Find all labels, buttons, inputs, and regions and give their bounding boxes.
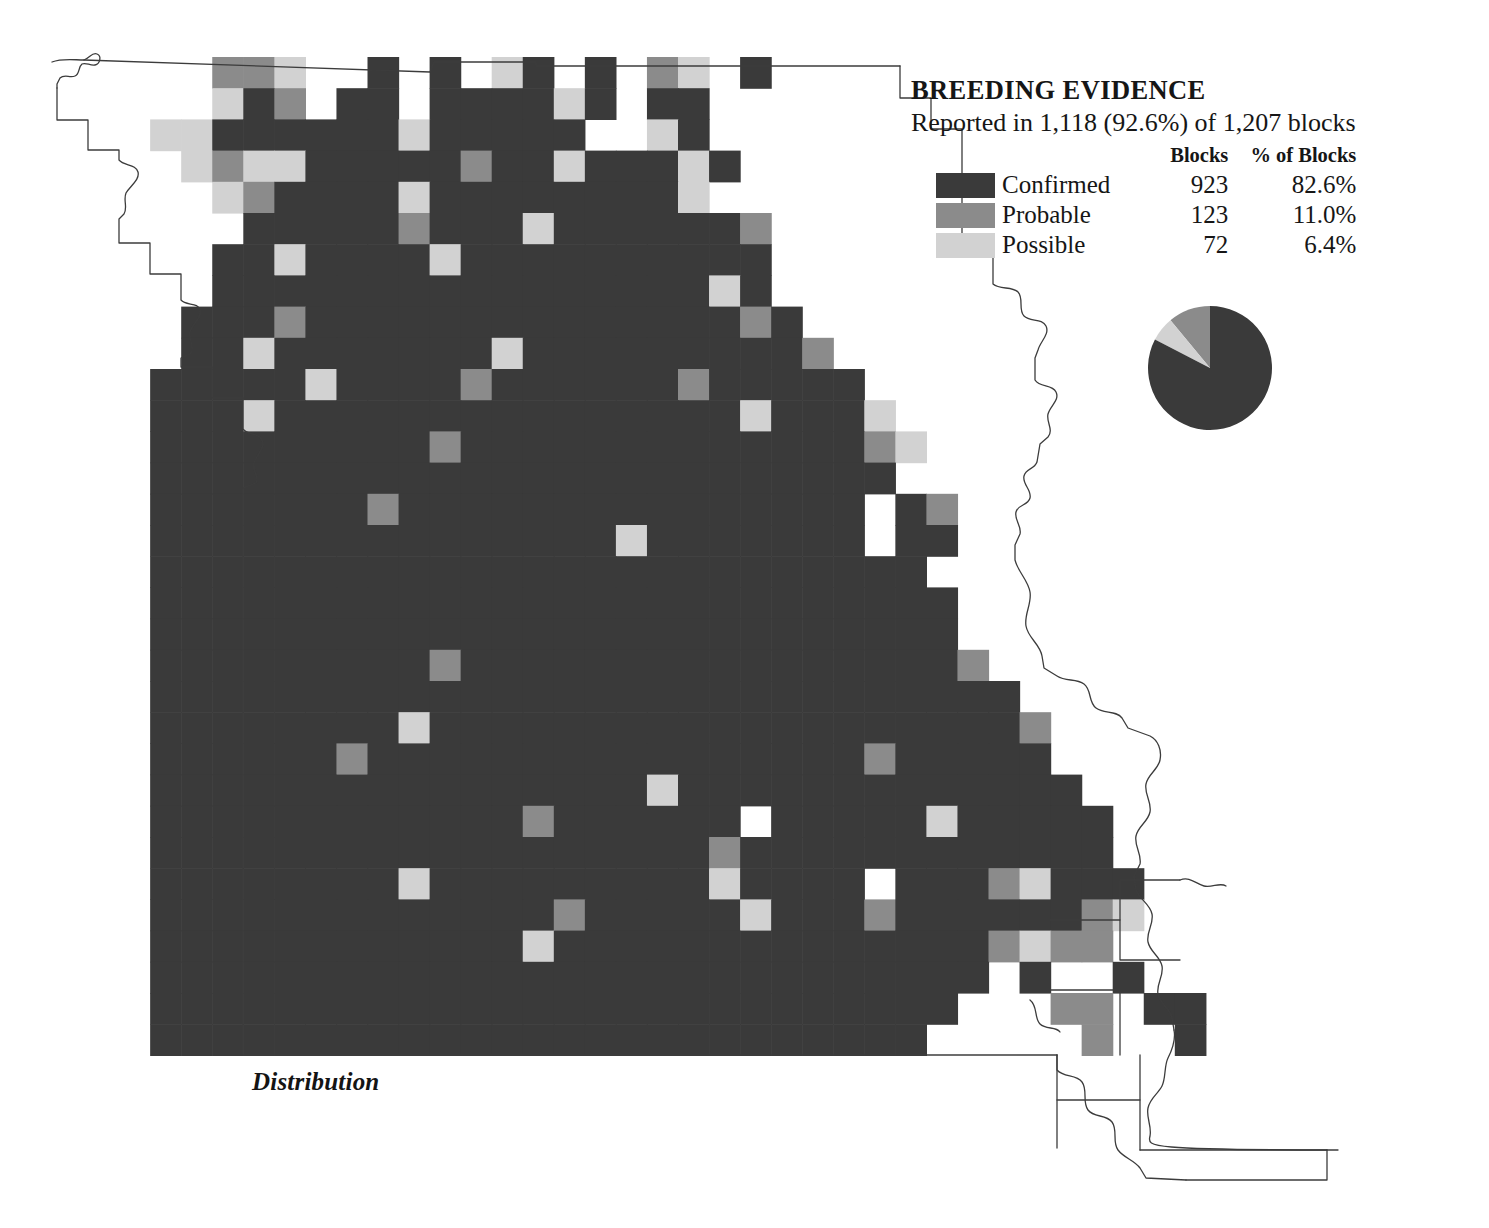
map-block: [833, 931, 865, 963]
legend-row: Possible726.4%: [936, 230, 1356, 260]
legend-blocks-value: 123: [1110, 200, 1228, 230]
map-block: [181, 338, 213, 370]
map-block: [802, 650, 834, 682]
map-block: [430, 1024, 462, 1056]
map-block: [150, 650, 182, 682]
map-block: [864, 556, 896, 588]
map-block: [212, 275, 244, 307]
map-block: [368, 1024, 400, 1056]
map-block: [802, 837, 834, 869]
map-block: [678, 868, 710, 900]
map-block: [957, 806, 989, 838]
map-block: [368, 587, 400, 619]
map-block: [833, 712, 865, 744]
map-block: [336, 587, 368, 619]
map-block: [336, 151, 368, 183]
map-block: [647, 494, 679, 526]
map-block: [678, 1024, 710, 1056]
map-block: [647, 587, 679, 619]
map-block: [554, 556, 586, 588]
map-block: [461, 556, 493, 588]
map-block: [181, 525, 213, 557]
map-block: [181, 619, 213, 651]
map-block: [150, 494, 182, 526]
map-block: [989, 806, 1021, 838]
map-block: [802, 681, 834, 713]
map-block: [740, 650, 772, 682]
map-block: [895, 1024, 927, 1056]
map-block: [492, 431, 524, 463]
map-block: [305, 712, 337, 744]
map-block: [181, 868, 213, 900]
map-block: [771, 556, 803, 588]
map-block: [678, 993, 710, 1025]
map-block: [523, 307, 555, 339]
legend-body: Confirmed92382.6%Probable12311.0%Possibl…: [936, 170, 1356, 260]
map-block: [678, 712, 710, 744]
map-block: [181, 743, 213, 775]
legend-color-swatch: [936, 233, 995, 258]
map-block: [678, 650, 710, 682]
map-block: [274, 681, 306, 713]
map-block: [368, 931, 400, 963]
map-block: [802, 431, 834, 463]
map-block: [585, 307, 617, 339]
map-block: [430, 619, 462, 651]
map-block: [740, 400, 772, 432]
map-block: [305, 182, 337, 214]
map-block: [771, 587, 803, 619]
map-block: [616, 806, 648, 838]
map-block: [150, 400, 182, 432]
map-block: [585, 712, 617, 744]
map-block: [740, 993, 772, 1025]
map-block: [771, 307, 803, 339]
map-block: [585, 338, 617, 370]
map-block: [399, 681, 431, 713]
map-block: [1082, 993, 1114, 1025]
map-block: [1113, 899, 1145, 931]
legend-table: Blocks % of Blocks Confirmed92382.6%Prob…: [936, 144, 1356, 260]
map-block: [926, 743, 958, 775]
map-block: [678, 619, 710, 651]
map-block: [243, 650, 275, 682]
map-block: [895, 837, 927, 869]
map-block: [492, 213, 524, 245]
map-block: [181, 806, 213, 838]
map-block: [212, 868, 244, 900]
map-block: [274, 556, 306, 588]
map-block: [430, 182, 462, 214]
map-block: [957, 650, 989, 682]
map-block: [709, 681, 741, 713]
map-block: [399, 556, 431, 588]
map-block: [895, 587, 927, 619]
map-block: [709, 525, 741, 557]
map-block: [740, 712, 772, 744]
map-block: [554, 275, 586, 307]
map-block: [1113, 962, 1145, 994]
map-block: [461, 962, 493, 994]
map-block: [926, 837, 958, 869]
map-block: [616, 931, 648, 963]
map-block: [181, 1024, 213, 1056]
map-block: [833, 619, 865, 651]
map-block: [523, 525, 555, 557]
map-block: [336, 743, 368, 775]
map-block: [492, 712, 524, 744]
map-block: [926, 681, 958, 713]
map-block: [212, 151, 244, 183]
map-block: [336, 119, 368, 151]
map-block: [771, 494, 803, 526]
map-block: [492, 775, 524, 807]
map-block: [492, 369, 524, 401]
map-block: [554, 619, 586, 651]
map-block: [523, 712, 555, 744]
map-block: [740, 275, 772, 307]
map-block: [554, 244, 586, 276]
map-block: [243, 275, 275, 307]
map-block: [864, 712, 896, 744]
map-block: [771, 806, 803, 838]
map-block: [399, 712, 431, 744]
map-block: [647, 88, 679, 120]
map-block: [461, 151, 493, 183]
map-block: [523, 931, 555, 963]
